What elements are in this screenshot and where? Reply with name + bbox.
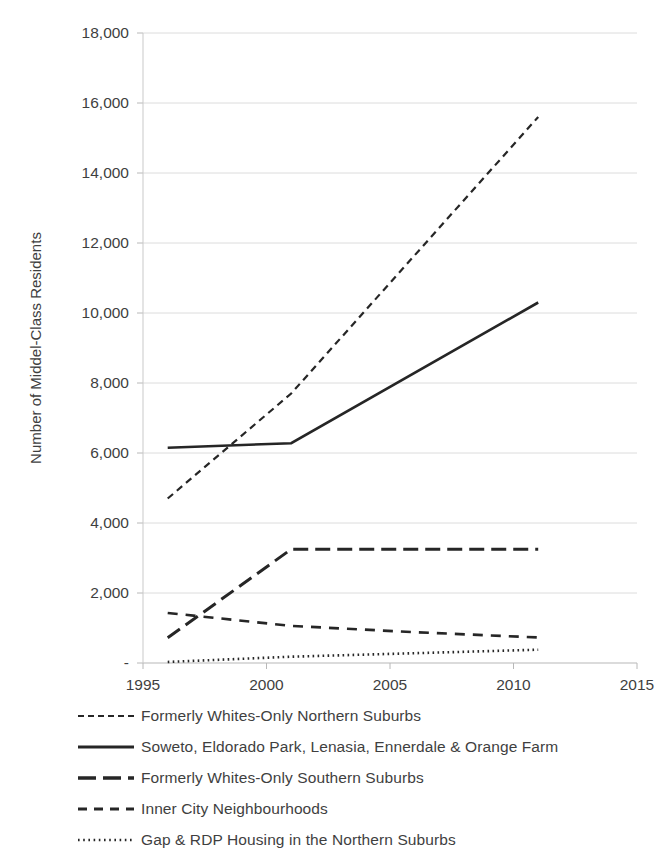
legend-item-label: Formerly Whites-Only Southern Suburbs [141,769,424,787]
y-tick-label: 16,000 [82,94,130,111]
y-axis-title: Number of Middel-Class Residents [27,232,44,464]
legend-line-sample [77,833,135,847]
y-tick-label: 10,000 [82,304,130,321]
y-tick-label: - [124,654,129,671]
x-tick-label: 2015 [620,676,654,693]
y-tick-label: 4,000 [90,514,129,531]
series-line-0 [168,117,539,499]
x-tick-labels-group: 19952000200520102015 [126,676,654,693]
legend-item-label: Inner City Neighbourhoods [141,800,328,818]
series-line-4 [168,650,539,662]
x-tick-label: 2000 [249,676,284,693]
series-line-3 [168,613,539,638]
plot-area-container: -2,0004,0006,0008,00010,00012,00014,0001… [0,0,670,700]
y-tick-marks-group [137,33,143,663]
legend-item[interactable]: Inner City Neighbourhoods [0,793,670,824]
x-tick-label: 2010 [496,676,531,693]
line-chart-figure: -2,0004,0006,0008,00010,00012,00014,0001… [0,0,670,866]
chart-legend: Formerly Whites-Only Northern SuburbsSow… [0,700,670,866]
legend-item[interactable]: Soweto, Eldorado Park, Lenasia, Ennerdal… [0,731,670,762]
x-tick-marks-group [143,663,637,669]
legend-item-label: Formerly Whites-Only Northern Suburbs [141,707,421,725]
y-tick-label: 2,000 [90,584,129,601]
x-tick-label: 1995 [126,676,160,693]
y-tick-label: 18,000 [82,24,130,41]
y-tick-label: 14,000 [82,164,130,181]
gridlines-group [143,33,637,663]
legend-item[interactable]: Gap & RDP Housing in the Northern Suburb… [0,824,670,855]
legend-line-sample [77,709,135,723]
y-tick-label: 8,000 [90,374,129,391]
legend-item-label: Soweto, Eldorado Park, Lenasia, Ennerdal… [141,738,558,756]
y-tick-label: 6,000 [90,444,129,461]
legend-line-sample [77,771,135,785]
legend-item[interactable]: Formerly Whites-Only Southern Suburbs [0,762,670,793]
legend-line-sample [77,740,135,754]
x-tick-label: 2005 [373,676,407,693]
legend-item[interactable]: Formerly Whites-Only Northern Suburbs [0,700,670,731]
data-series-group [168,117,539,662]
legend-line-sample [77,802,135,816]
y-tick-label: 12,000 [82,234,130,251]
chart-svg: -2,0004,0006,0008,00010,00012,00014,0001… [0,0,670,700]
series-line-2 [168,549,539,638]
y-tick-labels-group: -2,0004,0006,0008,00010,00012,00014,0001… [82,24,130,671]
legend-item-label: Gap & RDP Housing in the Northern Suburb… [141,831,456,849]
